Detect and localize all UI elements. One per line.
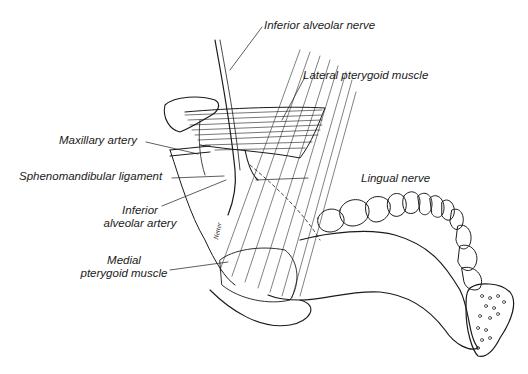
label-lingual-nerve: Lingual nerve bbox=[361, 172, 430, 185]
label-inferior-alveolar-artery-line2: alveolar artery bbox=[96, 217, 184, 230]
medial-pterygoid-fibers bbox=[220, 50, 356, 298]
label-medial-pterygoid-muscle-line1: Medial bbox=[74, 254, 174, 267]
label-medial-pterygoid-muscle: Medial pterygoid muscle bbox=[74, 254, 174, 280]
label-sphenomandibular-ligament: Sphenomandibular ligament bbox=[19, 170, 162, 183]
label-lateral-pterygoid-muscle: Lateral pterygoid muscle bbox=[303, 69, 428, 82]
cancellous-bone-pattern bbox=[477, 295, 506, 350]
label-maxillary-artery: Maxillary artery bbox=[59, 134, 137, 147]
teeth-row bbox=[318, 192, 482, 290]
lingual-nerve bbox=[245, 150, 258, 180]
artist-signature: Netter bbox=[212, 221, 224, 241]
label-inferior-alveolar-nerve: Inferior alveolar nerve bbox=[264, 19, 375, 32]
label-medial-pterygoid-muscle-line2: pterygoid muscle bbox=[74, 267, 174, 280]
lateral-pterygoid-fibers bbox=[185, 110, 322, 150]
mandible-illustration: Netter bbox=[0, 0, 528, 374]
label-inferior-alveolar-artery: Inferior alveolar artery bbox=[96, 204, 184, 230]
anatomy-figure: Netter Inferior alveolar nerve Lateral p… bbox=[0, 0, 528, 374]
label-inferior-alveolar-artery-line1: Inferior bbox=[96, 204, 184, 217]
mandible-lower-edge bbox=[210, 290, 311, 326]
mandible-cross-section bbox=[466, 284, 514, 356]
ramus-inner bbox=[199, 120, 205, 175]
maxillary-artery bbox=[170, 146, 210, 156]
mandible-body bbox=[268, 231, 478, 349]
medial-pterygoid-belly bbox=[220, 248, 297, 302]
